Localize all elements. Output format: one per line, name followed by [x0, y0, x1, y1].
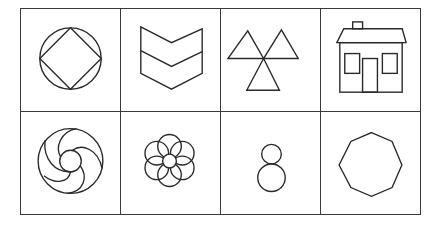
cell-octagon[interactable]: Octagon: [321, 112, 420, 214]
cell-swirl[interactable]: Swirl inside circle: [21, 112, 121, 214]
cell-flower[interactable]: Flower: [121, 112, 221, 214]
window-left: [345, 54, 360, 74]
door: [363, 59, 378, 93]
cell-circle-diamond[interactable]: Circle with inscribed diamond: [21, 9, 121, 112]
cell-house[interactable]: House: [321, 9, 420, 112]
shape-grid: Circle with inscribed diamond Stacked ch…: [20, 8, 421, 215]
octagon-icon: [321, 112, 420, 214]
swirl-circle-icon: [21, 112, 120, 214]
window-right: [382, 54, 397, 74]
three-triangles-icon: [221, 9, 320, 111]
circle-inscribed-diamond-icon: [21, 9, 120, 111]
house-body: [340, 43, 402, 93]
cell-stacked-circles[interactable]: Two stacked circles: [221, 112, 321, 214]
flower-icon: [121, 112, 220, 214]
double-chevron-icon: [121, 9, 220, 111]
house-icon: [321, 9, 420, 111]
chimney: [353, 22, 363, 29]
cell-triangles[interactable]: Three triangles meeting at a point: [221, 9, 321, 112]
cell-chevrons[interactable]: Stacked chevrons: [121, 9, 221, 112]
two-stacked-circles-icon: [221, 112, 320, 214]
